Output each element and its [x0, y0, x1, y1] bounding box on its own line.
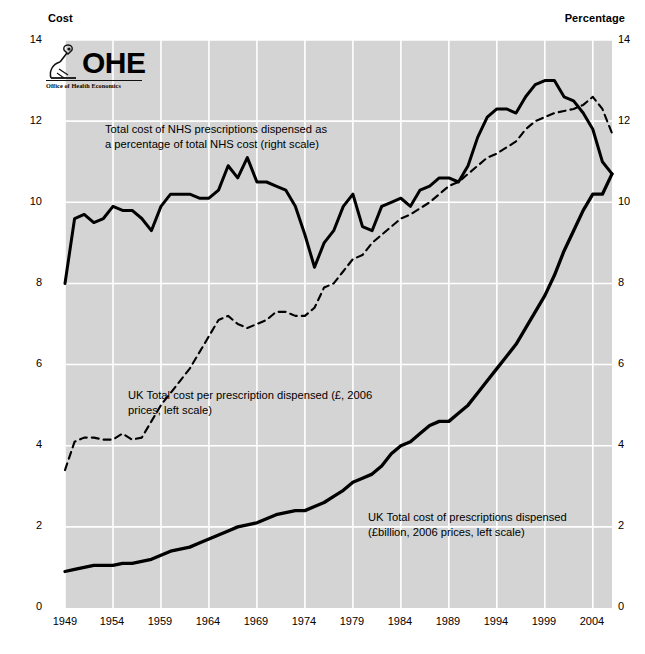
y-tick-right-5: 4 [618, 438, 645, 450]
x-tick-1964: 1964 [186, 615, 230, 627]
ohe-logo: OHE Office of Health Economics [46, 42, 144, 94]
ohe-subtitle: Office of Health Economics [46, 82, 121, 89]
y-tick-right-6: 2 [618, 519, 645, 531]
y-tick-right-3: 8 [618, 276, 645, 288]
y-tick-left-0: 14 [12, 33, 42, 45]
x-tick-2004: 2004 [570, 615, 614, 627]
x-tick-1979: 1979 [330, 615, 374, 627]
y-tick-right-7: 0 [618, 600, 645, 612]
y-tick-left-2: 10 [12, 195, 42, 207]
microscope-icon [46, 42, 82, 82]
plot-area [0, 0, 645, 654]
right-axis-title: Percentage [565, 12, 625, 24]
y-tick-left-7: 0 [12, 600, 42, 612]
x-tick-1994: 1994 [474, 615, 518, 627]
left-axis-title: Cost [48, 12, 73, 24]
x-tick-1954: 1954 [90, 615, 134, 627]
chart-figure: Cost Percentage 14 12 10 8 6 4 2 0 14 12… [0, 0, 645, 654]
annotation-total-cost: UK Total cost of prescriptions dispensed… [368, 510, 567, 540]
y-tick-right-2: 10 [618, 195, 645, 207]
x-tick-1959: 1959 [138, 615, 182, 627]
x-tick-1974: 1974 [282, 615, 326, 627]
y-tick-right-1: 12 [618, 114, 645, 126]
y-tick-left-6: 2 [12, 519, 42, 531]
x-tick-1984: 1984 [378, 615, 422, 627]
y-tick-left-3: 8 [12, 276, 42, 288]
ohe-wordmark: OHE [82, 48, 146, 78]
x-tick-1989: 1989 [426, 615, 470, 627]
annotation-percentage: Total cost of NHS prescriptions dispense… [105, 122, 327, 152]
y-tick-left-4: 6 [12, 357, 42, 369]
x-tick-1949: 1949 [43, 615, 87, 627]
y-tick-left-5: 4 [12, 438, 42, 450]
y-tick-left-1: 12 [12, 114, 42, 126]
x-tick-1999: 1999 [522, 615, 566, 627]
x-tick-1969: 1969 [234, 615, 278, 627]
y-tick-right-0: 14 [618, 33, 645, 45]
y-tick-right-4: 6 [618, 357, 645, 369]
annotation-cost-per-prescription: UK Total cost per prescription dispensed… [128, 388, 372, 418]
